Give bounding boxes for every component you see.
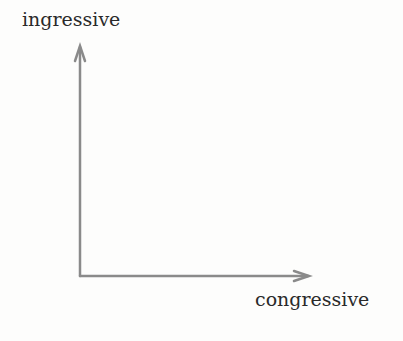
axes-diagram xyxy=(0,0,403,341)
